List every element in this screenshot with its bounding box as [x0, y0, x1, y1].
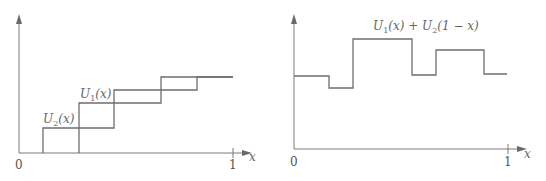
x-axis [19, 148, 252, 158]
origin-label: 0 [290, 156, 298, 168]
one-label: 1 [229, 159, 237, 171]
u2-label: U2(x) [43, 113, 74, 130]
y-axis-arrow-icon [291, 14, 297, 24]
left-chart-canvas [0, 0, 273, 181]
x-axis-label: x [249, 151, 256, 163]
x-axis-label: x [524, 148, 531, 160]
y-axis-arrow-icon [16, 14, 22, 24]
origin-label: 0 [15, 159, 23, 171]
sum-label: U1(x) + U2(1 − x) [373, 20, 479, 37]
left-step-chart: 0 1 x U1(x) U2(x) [0, 0, 273, 181]
one-label: 1 [504, 156, 512, 168]
y-axis [291, 14, 297, 149]
u1-label: U1(x) [80, 88, 111, 105]
y-axis [16, 14, 22, 153]
sum-step-line [294, 39, 507, 88]
right-step-chart: 0 1 x U1(x) + U2(1 − x) [273, 0, 546, 181]
x-axis [294, 144, 527, 154]
